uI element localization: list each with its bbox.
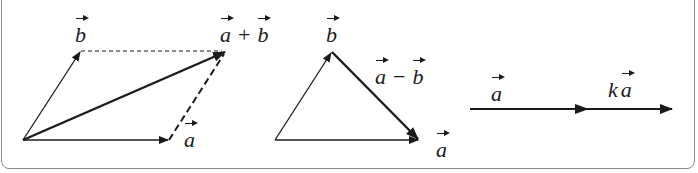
scalar-k: k <box>608 77 618 102</box>
label-b-sum: b <box>75 24 86 46</box>
label-b-diff: b <box>326 24 337 46</box>
vector-b-symbol: b <box>326 24 337 46</box>
label-a-scalar: a <box>491 83 502 105</box>
label-a-plus-b: a+b <box>220 24 268 46</box>
label-ka: ka <box>608 79 632 101</box>
vector-b-arrow <box>275 53 331 140</box>
vector-a-symbol: a <box>220 24 231 46</box>
vector-a-arrowhead <box>575 104 589 114</box>
label-a-sum: a <box>184 129 195 151</box>
vector-a-symbol: a <box>621 79 632 101</box>
dashed-right-edge <box>169 54 224 140</box>
vector-b-symbol: b <box>412 66 423 88</box>
vector-a-symbol: a <box>375 66 386 88</box>
vector-b-symbol: b <box>257 24 268 46</box>
vector-diagram <box>0 0 698 173</box>
vector-a-symbol: a <box>491 83 502 105</box>
vector-a-symbol: a <box>436 139 447 161</box>
plus-operator: + <box>238 22 250 47</box>
vector-b-symbol: b <box>75 24 86 46</box>
vector-a-symbol: a <box>184 129 195 151</box>
minus-operator: − <box>393 64 405 89</box>
label-a-minus-b: a−b <box>375 66 423 88</box>
label-a-diff: a <box>436 139 447 161</box>
